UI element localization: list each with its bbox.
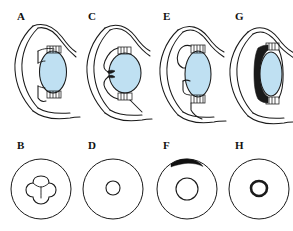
panel-e: E [146, 0, 221, 125]
panel-label-b: B [17, 140, 24, 151]
panel-a: A [0, 0, 75, 125]
pupil-medium-f [176, 178, 198, 200]
panel-f: F [146, 128, 221, 231]
pupil-small-d [106, 181, 120, 195]
panel-b: B [0, 128, 75, 231]
eye-cross-section-c [72, 18, 152, 123]
figure-root: A [0, 0, 293, 231]
superior-crescent-f [171, 159, 203, 167]
panel-h: H [218, 128, 293, 231]
pupil-view-d [80, 154, 146, 224]
panel-label-f: F [163, 140, 170, 151]
panel-label-d: D [88, 140, 96, 151]
eye-cross-section-a [0, 18, 80, 123]
pupil-view-h [226, 154, 292, 224]
eye-cross-section-g [218, 18, 293, 123]
eye-cross-section-e [146, 18, 226, 123]
pupil-view-f [154, 154, 220, 224]
pupil-view-b [8, 154, 74, 224]
panel-c: C [72, 0, 147, 125]
pupil-constricted-h [251, 181, 267, 196]
panel-d: D [72, 128, 147, 231]
panel-g: G [218, 0, 293, 125]
panel-label-h: H [235, 140, 244, 151]
